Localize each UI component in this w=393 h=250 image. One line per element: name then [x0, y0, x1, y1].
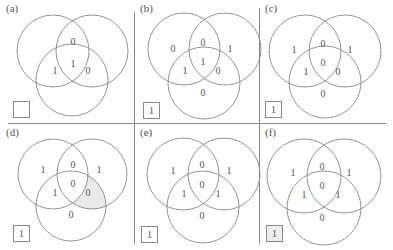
answer-box — [13, 101, 30, 118]
region-ac: 1 — [182, 188, 187, 199]
region-ab: 0 — [71, 159, 76, 170]
circle-b — [189, 13, 261, 85]
region-ac: 1 — [53, 187, 58, 198]
circle-a — [147, 138, 219, 210]
region-a-only: 1 — [291, 167, 296, 178]
panel-d: (d) 1 1 0 1 0 0 0 1 — [0, 124, 125, 248]
region-bc: 1 — [336, 189, 341, 200]
region-b-only: 1 — [347, 167, 352, 178]
region-abc: 0 — [321, 57, 326, 68]
panel-e: (e) 1 1 0 1 0 1 0 1 — [134, 124, 259, 248]
region-bc: 1 — [216, 188, 221, 199]
region-bc: 0 — [216, 65, 221, 76]
region-a-only: 1 — [171, 165, 176, 176]
region-abc: 1 — [201, 56, 206, 67]
region-bc: 0 — [86, 187, 91, 198]
region-ab: 0 — [321, 38, 326, 49]
panel-label: (b) — [140, 2, 153, 14]
circle-b — [56, 15, 128, 87]
region-abc: 1 — [71, 58, 76, 69]
region-c-only: 0 — [320, 212, 325, 223]
region-a-only: 1 — [292, 44, 297, 55]
region-b-only: 1 — [228, 43, 233, 54]
region-abc: 0 — [320, 180, 325, 191]
panel-label: (e) — [140, 126, 152, 138]
region-bc: 0 — [86, 65, 91, 76]
region-c-only: 0 — [200, 210, 205, 221]
region-c-only: 0 — [201, 87, 206, 98]
region-abc: 0 — [71, 178, 76, 189]
answer-box: 1 — [13, 225, 30, 242]
region-ac: 1 — [183, 65, 188, 76]
region-b-only: 1 — [227, 165, 232, 176]
panel-f: (f) 1 1 0 1 0 1 0 1 — [259, 124, 384, 248]
region-c-only: 0 — [69, 209, 74, 220]
region-ac: 1 — [53, 65, 58, 76]
region-ac: 1 — [302, 189, 307, 200]
circle-a — [17, 15, 89, 87]
answer-box: 1 — [143, 102, 160, 119]
panel-label: (f) — [265, 126, 276, 138]
region-bc: 0 — [336, 66, 341, 77]
circle-a — [267, 139, 341, 213]
region-ab: 0 — [200, 159, 205, 170]
panel-a: (a) 0 1 1 0 — [0, 0, 125, 124]
circle-b — [309, 15, 381, 87]
answer-box: 1 — [266, 225, 283, 242]
panel-b: (b) 0 1 0 1 1 0 0 1 — [134, 0, 259, 124]
answer-box: 1 — [265, 101, 282, 118]
region-ab: 0 — [201, 37, 206, 48]
panel-label: (c) — [265, 2, 277, 14]
region-abc: 0 — [200, 179, 205, 190]
panel-label: (a) — [6, 2, 18, 14]
region-ac: 1 — [304, 66, 309, 77]
region-ab: 0 — [71, 36, 76, 47]
panel-c: (c) 1 1 0 1 0 0 0 1 — [259, 0, 384, 124]
circle-b — [307, 139, 381, 213]
panel-label: (d) — [6, 126, 19, 138]
region-a-only: 1 — [41, 164, 46, 175]
circle-b — [188, 138, 260, 210]
region-a-only: 0 — [171, 43, 176, 54]
region-c-only: 0 — [321, 88, 326, 99]
region-b-only: 1 — [348, 44, 353, 55]
answer-box: 1 — [141, 226, 158, 243]
region-b-only: 1 — [97, 164, 102, 175]
circle-c — [36, 44, 108, 116]
region-ab: 0 — [320, 161, 325, 172]
